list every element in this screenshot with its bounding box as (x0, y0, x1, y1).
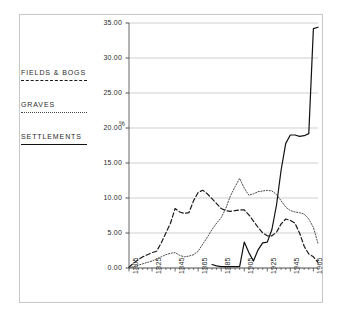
series-line-fields-bogs (129, 190, 318, 267)
series-line-graves (129, 178, 318, 268)
series-line-settlements (212, 27, 318, 266)
chart-figure: FIELDS & BOGS GRAVES SETTLEMENTS % 0.005… (0, 0, 338, 316)
plot-area (0, 0, 338, 316)
